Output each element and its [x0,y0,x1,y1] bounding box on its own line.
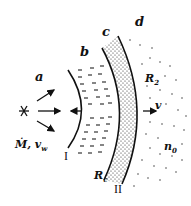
region-label-d: d [135,14,144,29]
star-icon [19,106,29,116]
bubble-diagram: a b c d R2 v n0 Ṁ, vw Rc I II [0,0,191,206]
region-label-b: b [80,44,89,59]
inner-shock-label: I [64,149,68,163]
outer-radius-label: R2 [144,72,159,87]
inner-shock-curve [68,70,82,148]
ambient-medium-dots [129,39,186,186]
region-label-a: a [35,69,43,84]
wind-source-label: Ṁ, vw [14,137,48,153]
ambient-density-label: n0 [164,140,177,155]
wind-arrows [37,90,60,131]
shocked-wind-dashes [78,66,112,153]
velocity-label: v [155,99,162,112]
outer-shock-label: II [114,182,122,196]
region-label-c: c [102,24,110,39]
contact-radius-label: Rc [93,169,108,184]
